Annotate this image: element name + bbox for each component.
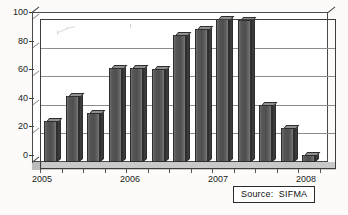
x-axis-tick bbox=[62, 169, 63, 173]
x-axis-tick bbox=[277, 169, 278, 173]
y-axis-label-0: 0 bbox=[0, 151, 28, 160]
y-axis-label-100: 100 bbox=[0, 8, 28, 17]
x-axis-tick bbox=[169, 169, 170, 173]
x-axis-tick bbox=[212, 169, 213, 173]
x-axis-tick bbox=[255, 169, 256, 173]
axis-left-vertical bbox=[32, 12, 33, 163]
x-axis-tick bbox=[320, 169, 321, 173]
x-axis-label-2007: 2007 bbox=[196, 174, 240, 184]
x-axis-tick bbox=[126, 169, 127, 173]
y-axis-label-40: 40 bbox=[0, 94, 28, 103]
source-attribution: Source: SIFMA bbox=[233, 186, 315, 203]
x-axis-label-2008: 2008 bbox=[284, 174, 328, 184]
y-axis-label-60: 60 bbox=[0, 65, 28, 74]
x-axis-tick bbox=[40, 169, 41, 173]
x-axis-tick bbox=[148, 169, 149, 173]
x-axis-tick bbox=[234, 169, 235, 173]
plot-front-frame bbox=[40, 19, 336, 169]
x-axis-tick bbox=[105, 169, 106, 173]
x-axis-label-2006: 2006 bbox=[108, 174, 152, 184]
depth-edge-top-right bbox=[328, 7, 336, 13]
chart-image: 100 80 60 40 20 0 2005 2006 2007 2008 So… bbox=[0, 0, 348, 215]
y-axis-label-20: 20 bbox=[0, 122, 28, 131]
x-axis-tick bbox=[191, 169, 192, 173]
x-axis-tick bbox=[83, 169, 84, 173]
y-axis-label-80: 80 bbox=[0, 37, 28, 46]
x-axis-label-2005: 2005 bbox=[20, 174, 64, 184]
x-axis-tick bbox=[298, 169, 299, 173]
